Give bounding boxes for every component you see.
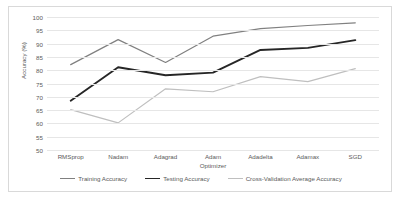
y-tick-label: 60 — [36, 120, 43, 127]
gridline — [47, 84, 379, 85]
gridline — [47, 44, 379, 45]
legend-item[interactable]: Testing Accuracy — [145, 175, 209, 182]
chart-container: Accuracy (%) 50556065707580859095100 RMS… — [8, 6, 392, 192]
legend-swatch-icon — [145, 178, 160, 179]
y-tick-label: 90 — [36, 40, 43, 47]
y-tick-label: 50 — [36, 147, 43, 154]
y-tick-label: 80 — [36, 67, 43, 74]
legend-swatch-icon — [60, 178, 75, 179]
x-axis-title: Optimizer — [47, 162, 379, 169]
legend-label: Testing Accuracy — [163, 175, 209, 182]
series-line — [71, 69, 356, 123]
y-tick-label: 95 — [36, 27, 43, 34]
y-tick-label: 70 — [36, 93, 43, 100]
gridline — [47, 150, 379, 151]
gridline — [47, 57, 379, 58]
x-tick-label: Adamax — [296, 153, 319, 160]
gridline — [47, 30, 379, 31]
x-tick-label: Adadelta — [248, 153, 272, 160]
legend-item[interactable]: Training Accuracy — [60, 175, 127, 182]
y-axis-tick-labels: 50556065707580859095100 — [23, 17, 43, 150]
gridline — [47, 123, 379, 124]
chart-legend: Training AccuracyTesting AccuracyCross-V… — [9, 175, 393, 182]
gridline — [47, 17, 379, 18]
legend-item[interactable]: Cross-Validation Average Accuracy — [228, 175, 342, 182]
plot-area — [47, 17, 379, 150]
y-tick-label: 100 — [32, 14, 43, 21]
gridline — [47, 110, 379, 111]
y-tick-label: 65 — [36, 107, 43, 114]
x-tick-label: Adam — [205, 153, 221, 160]
y-tick-label: 85 — [36, 53, 43, 60]
gridline — [47, 70, 379, 71]
gridline — [47, 137, 379, 138]
x-tick-label: Adagrad — [154, 153, 177, 160]
legend-swatch-icon — [228, 178, 243, 179]
legend-label: Cross-Validation Average Accuracy — [246, 175, 342, 182]
x-tick-label: RMSprop — [58, 153, 84, 160]
x-tick-label: Nadam — [108, 153, 128, 160]
x-tick-label: SGD — [349, 153, 362, 160]
legend-label: Training Accuracy — [78, 175, 127, 182]
y-tick-label: 55 — [36, 133, 43, 140]
y-tick-label: 75 — [36, 80, 43, 87]
gridline — [47, 97, 379, 98]
